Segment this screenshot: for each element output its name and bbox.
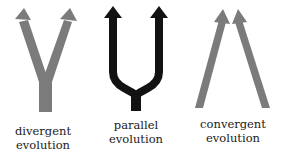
convergent-arrow-icon	[195, 9, 270, 108]
convergent-label-line2: evolution	[193, 131, 273, 145]
divergent-label-line2: evolution	[8, 138, 78, 152]
parallel-label-line2: evolution	[101, 132, 171, 146]
convergent-label-line1: convergent	[193, 117, 273, 131]
divergent-arrow-icon	[15, 8, 77, 112]
divergent-label: divergent evolution	[8, 124, 78, 152]
parallel-label-line1: parallel	[101, 118, 171, 132]
convergent-label: convergent evolution	[193, 117, 273, 145]
parallel-label: parallel evolution	[101, 118, 171, 146]
divergent-label-line1: divergent	[8, 124, 78, 138]
